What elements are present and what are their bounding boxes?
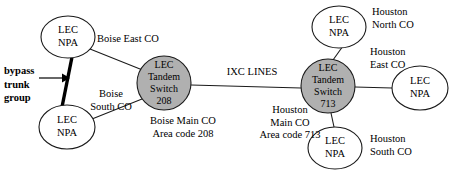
node-houston-east-co-line1: LEC xyxy=(410,75,430,86)
edge-boise-east-to-tandem xyxy=(90,49,145,71)
node-boise-tandem-line3: Switch xyxy=(150,83,178,94)
node-houston-south-co-line2: NPA xyxy=(325,148,345,159)
node-houston-east-co-line2: NPA xyxy=(410,88,430,99)
network-diagram: LEC NPA LEC NPA LEC Tandem Switch 208 LE… xyxy=(0,0,449,175)
edge-ixc-lines xyxy=(191,85,301,88)
node-boise-south-co-line1: LEC xyxy=(57,114,77,125)
label-ixc-lines: IXC LINES xyxy=(216,66,288,79)
label-houston-east-co: Houston East CO xyxy=(370,46,406,71)
node-boise-tandem-line4: 208 xyxy=(157,95,172,106)
node-boise-east-co-line1: LEC xyxy=(58,24,78,35)
label-houston-main-co: Houston Main CO Area code 713 xyxy=(240,104,340,142)
edge-houston-east-to-tandem xyxy=(355,87,392,88)
node-boise-tandem-line2: Tandem xyxy=(148,71,180,82)
node-boise-tandem-line1: LEC xyxy=(155,59,174,70)
label-bypass-trunk-group: bypass trunk group xyxy=(4,64,34,105)
edge-bypass-trunk-group xyxy=(62,57,72,107)
node-houston-tandem-line2: Tandem xyxy=(312,74,344,85)
label-boise-east-co: Boise East CO xyxy=(97,33,159,46)
node-houston-north-co-line2: NPA xyxy=(329,27,349,38)
node-houston-tandem-line3: Switch xyxy=(314,86,342,97)
node-houston-tandem-line1: LEC xyxy=(319,62,338,73)
label-boise-south-co: Boise South CO xyxy=(72,88,150,113)
node-boise-east-co-line2: NPA xyxy=(58,37,78,48)
label-boise-main-co: Boise Main CO Area code 208 xyxy=(128,115,238,140)
node-boise-south-co-line2: NPA xyxy=(57,127,77,138)
label-houston-south-co: Houston South CO xyxy=(370,133,412,158)
node-houston-north-co-line1: LEC xyxy=(329,14,349,25)
label-houston-north-co: Houston North CO xyxy=(372,6,414,31)
